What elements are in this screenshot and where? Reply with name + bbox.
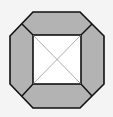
octagon-diagram: [0, 0, 113, 117]
